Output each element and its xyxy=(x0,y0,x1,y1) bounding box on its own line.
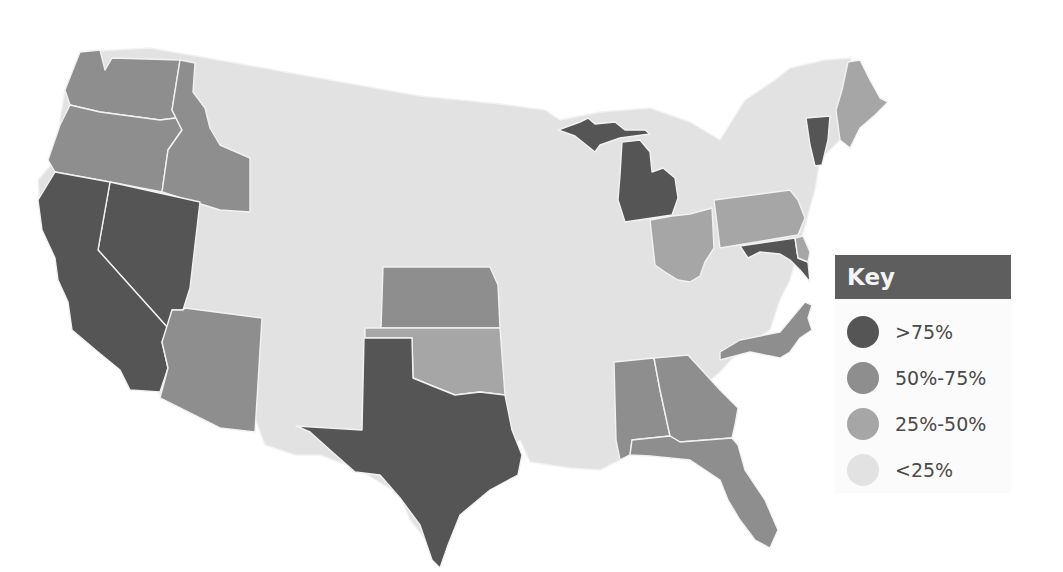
map-legend: Key >75% 50%-75% 25%-50% <25% xyxy=(835,255,1011,493)
state-florida xyxy=(630,436,778,548)
legend-item-25-50: 25%-50% xyxy=(847,401,1011,447)
legend-swatch-light-circle-icon xyxy=(847,454,879,486)
legend-label: <25% xyxy=(895,459,953,481)
state-kansas xyxy=(381,267,500,328)
legend-item-50-75: 50%-75% xyxy=(847,355,1011,401)
legend-swatch-medium-circle-icon xyxy=(847,362,879,394)
legend-label: 25%-50% xyxy=(895,413,986,435)
legend-item-lt25: <25% xyxy=(847,447,1011,493)
legend-label: 50%-75% xyxy=(895,367,986,389)
legend-item-gt75: >75% xyxy=(847,309,1011,355)
legend-swatch-dark-circle-icon xyxy=(847,316,879,348)
legend-swatch-light-medium-circle-icon xyxy=(847,408,879,440)
legend-title: Key xyxy=(835,255,1011,299)
state-arizona xyxy=(160,308,262,432)
legend-label: >75% xyxy=(895,321,953,343)
